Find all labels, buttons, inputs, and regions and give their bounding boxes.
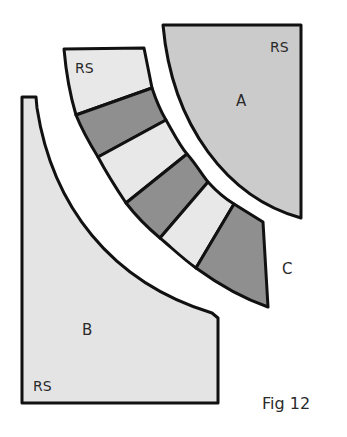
pattern-diagram: RS A RS C B RS Fig 12 [0, 0, 347, 437]
piece-b-rs-label: RS [33, 378, 52, 394]
piece-b-label: B [82, 321, 92, 339]
piece-c-rs-label: RS [75, 60, 94, 76]
piece-a-rs-label: RS [270, 39, 289, 55]
piece-c-label: C [282, 260, 292, 278]
figure-caption: Fig 12 [262, 394, 310, 413]
piece-a-label: A [236, 92, 247, 110]
